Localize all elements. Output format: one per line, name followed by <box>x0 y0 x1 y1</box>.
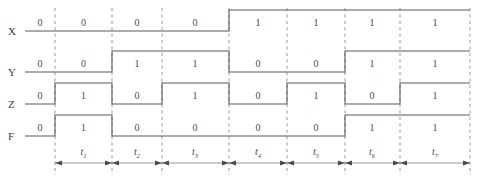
bit-x-1: 0 <box>81 17 86 28</box>
bit-y-0: 0 <box>38 58 43 69</box>
bit-y-7: 1 <box>433 58 438 69</box>
interval-label-5: t5 <box>313 146 320 159</box>
bit-f-2: 0 <box>135 122 140 133</box>
bit-labels-f: 0 1 0 0 0 0 1 1 <box>38 122 438 133</box>
interval-arrow-7-right <box>463 160 470 165</box>
bit-labels-x: 0 0 0 0 1 1 1 1 <box>38 17 438 28</box>
bit-z-6: 0 <box>370 90 375 101</box>
timing-diagram-canvas: X Y Z F 0 0 0 0 1 1 1 1 0 0 1 <box>0 0 478 180</box>
interval-arrow-7-left <box>400 160 407 165</box>
bit-z-3: 1 <box>193 90 198 101</box>
bit-z-2: 0 <box>135 90 140 101</box>
interval-label-3: t3 <box>192 146 199 159</box>
bit-f-5: 0 <box>314 122 319 133</box>
interval-arrow-2-right <box>155 160 162 165</box>
interval-label-4: t4 <box>255 146 262 159</box>
interval-label-group: t1 t2 t3 t4 t5 t6 t7 <box>80 146 438 159</box>
bit-z-0: 0 <box>38 90 43 101</box>
bit-x-5: 1 <box>314 17 319 28</box>
bit-f-0: 0 <box>38 122 43 133</box>
interval-arrow-6-left <box>345 160 352 165</box>
bit-y-1: 0 <box>81 58 86 69</box>
bit-z-1: 1 <box>81 90 86 101</box>
interval-arrow-5-right <box>338 160 345 165</box>
interval-arrow-5-left <box>287 160 294 165</box>
interval-arrow-3-left <box>162 160 169 165</box>
bit-y-4: 0 <box>256 58 261 69</box>
bit-z-5: 1 <box>314 90 319 101</box>
signal-label-z: Z <box>8 98 15 110</box>
interval-arrow-1-right <box>105 160 112 165</box>
interval-label-1: t1 <box>80 146 86 159</box>
timing-diagram: X Y Z F 0 0 0 0 1 1 1 1 0 0 1 <box>0 0 478 180</box>
signal-label-x: X <box>8 25 16 37</box>
bit-f-1: 1 <box>81 122 86 133</box>
bit-f-3: 0 <box>193 122 198 133</box>
interval-arrow-2-left <box>112 160 119 165</box>
interval-arrow-3-right <box>222 160 229 165</box>
signal-label-f: F <box>8 130 14 142</box>
interval-label-7: t7 <box>432 146 439 159</box>
waveform-z <box>25 83 470 104</box>
bit-z-7: 1 <box>433 90 438 101</box>
bit-f-4: 0 <box>256 122 261 133</box>
interval-arrow-4-right <box>280 160 287 165</box>
bit-f-7: 1 <box>433 122 438 133</box>
bit-labels-y: 0 0 1 1 0 0 1 1 <box>38 58 438 69</box>
bit-f-6: 1 <box>370 122 375 133</box>
interval-measure-group <box>55 160 470 165</box>
bit-x-4: 1 <box>256 17 261 28</box>
signal-label-y: Y <box>8 66 16 78</box>
bit-y-3: 1 <box>193 58 198 69</box>
interval-arrow-6-right <box>393 160 400 165</box>
interval-label-6: t6 <box>369 146 376 159</box>
gridline-group <box>55 8 470 175</box>
interval-arrow-1-left <box>55 160 62 165</box>
bit-x-6: 1 <box>370 17 375 28</box>
bit-y-6: 1 <box>370 58 375 69</box>
bit-labels-z: 0 1 0 1 0 1 0 1 <box>38 90 438 101</box>
bit-x-2: 0 <box>135 17 140 28</box>
interval-arrow-4-left <box>229 160 236 165</box>
bit-x-3: 0 <box>193 17 198 28</box>
interval-label-2: t2 <box>134 146 141 159</box>
bit-x-7: 1 <box>433 17 438 28</box>
bit-y-5: 0 <box>314 58 319 69</box>
waveform-f <box>25 115 470 136</box>
waveform-y <box>25 51 470 72</box>
bit-x-0: 0 <box>38 17 43 28</box>
bit-z-4: 0 <box>256 90 261 101</box>
waveform-x <box>25 10 470 31</box>
bit-y-2: 1 <box>135 58 140 69</box>
